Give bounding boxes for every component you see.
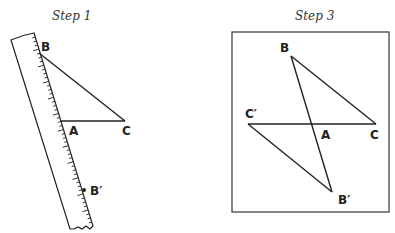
label-b: B xyxy=(41,40,50,54)
step3-panel: Step 3 B C′ A C B′ xyxy=(232,9,389,212)
step3-triangles xyxy=(248,56,376,192)
label-b: B xyxy=(280,41,289,55)
label-c-prime: C′ xyxy=(245,107,257,121)
label-b-prime: B′ xyxy=(338,193,350,207)
step3-title: Step 3 xyxy=(295,9,335,23)
label-c: C xyxy=(122,124,131,138)
label-a: A xyxy=(321,128,331,142)
step1-title: Step 1 xyxy=(52,9,91,23)
b-prime-point xyxy=(82,188,86,192)
diagram-canvas: Step 1 B A C B′ Step 3 B C′ A C B′ xyxy=(0,0,395,233)
label-c: C xyxy=(370,128,379,142)
label-a: A xyxy=(69,124,79,138)
step1-triangle xyxy=(39,53,125,121)
label-b-prime: B′ xyxy=(90,184,102,198)
step1-panel: Step 1 B A C B′ xyxy=(11,9,131,229)
